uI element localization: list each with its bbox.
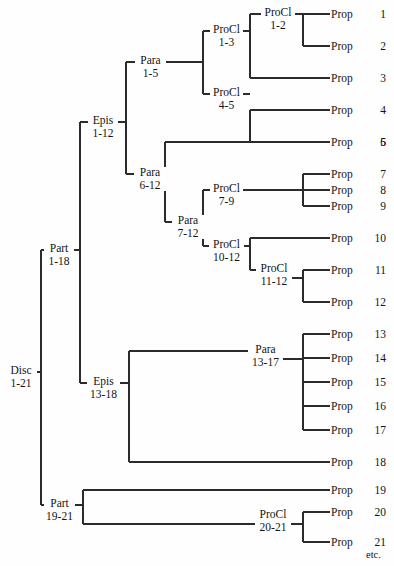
leaf-number-6: 6 [366,136,386,148]
node-procl-11-12-range: 11-12 [257,276,291,288]
node-disc-1-21-name: Disc [6,365,36,377]
node-para-7-12-name: Para [173,215,203,227]
leaf-number-13: 13 [366,328,386,340]
leaf-number-18: 18 [366,456,386,468]
node-procl-11-12[interactable]: ProCl 11-12 [256,263,292,287]
leaf-number-19: 19 [366,484,386,496]
node-procl-7-9-name: ProCl [211,183,242,195]
node-procl-1-3-name: ProCl [211,24,242,36]
leaf-number-10: 10 [366,232,386,244]
node-epis-1-12-range: 1-12 [89,128,117,140]
node-epis-13-18[interactable]: Epis 13-18 [87,376,120,400]
node-part-19-21[interactable]: Part 19-21 [44,498,75,522]
node-para-7-12-range: 7-12 [173,228,203,240]
leaf-prop-6[interactable]: Prop [330,136,354,148]
leaf-prop-16[interactable]: Prop [330,400,354,412]
leaf-prop-1[interactable]: Prop [330,8,354,20]
leaf-prop-3[interactable]: Prop [330,72,354,84]
node-procl-4-5[interactable]: ProCl 4-5 [210,87,243,111]
leaf-number-21: 21 [366,536,386,548]
node-para-13-17[interactable]: Para 13-17 [248,344,283,368]
tree-connector-lines [0,0,394,566]
node-procl-10-12-name: ProCl [210,239,243,251]
node-para-6-12-name: Para [135,167,165,179]
node-procl-1-3-range: 1-3 [211,37,242,49]
node-procl-1-2-range: 1-2 [262,20,294,32]
leaf-prop-7[interactable]: Prop [330,168,354,180]
leaf-prop-12[interactable]: Prop [330,296,354,308]
node-procl-1-3[interactable]: ProCl 1-3 [210,24,243,48]
node-procl-1-2[interactable]: ProCl 1-2 [261,7,295,31]
node-para-6-12[interactable]: Para 6-12 [134,167,166,191]
node-disc-1-21-range: 1-21 [6,378,36,390]
node-para-7-12[interactable]: Para 7-12 [172,215,204,239]
leaf-number-16: 16 [366,400,386,412]
leaf-prop-15[interactable]: Prop [330,376,354,388]
leaf-number-2: 2 [366,40,386,52]
node-procl-20-21[interactable]: ProCl 20-21 [255,509,291,533]
leaf-prop-20[interactable]: Prop [330,506,354,518]
node-procl-1-2-name: ProCl [262,7,294,19]
leaf-prop-4[interactable]: Prop [330,104,354,116]
node-procl-7-9[interactable]: ProCl 7-9 [210,183,243,207]
node-part-19-21-name: Part [45,498,74,510]
leaf-number-15: 15 [366,376,386,388]
leaf-prop-18[interactable]: Prop [330,456,354,468]
node-epis-13-18-name: Epis [88,376,119,388]
leaf-number-20: 20 [366,506,386,518]
node-procl-11-12-name: ProCl [257,263,291,275]
leaf-prop-2[interactable]: Prop [330,40,354,52]
leaf-number-12: 12 [366,296,386,308]
leaf-prop-11[interactable]: Prop [330,264,354,276]
tree-diagram-page: Disc 1-21 Part 1-18 Epis 1-12 Para 1-5 P… [0,0,394,566]
leaf-number-3: 3 [366,72,386,84]
leaf-prop-8[interactable]: Prop [330,184,354,196]
node-part-19-21-range: 19-21 [45,511,74,523]
node-para-1-5-name: Para [136,55,165,67]
node-para-1-5[interactable]: Para 1-5 [135,55,166,79]
node-disc-1-21[interactable]: Disc 1-21 [5,365,37,389]
leaf-number-1: 1 [366,8,386,20]
node-epis-1-12-name: Epis [89,115,117,127]
node-procl-20-21-range: 20-21 [256,522,290,534]
node-para-13-17-range: 13-17 [249,357,282,369]
leaf-prop-9[interactable]: Prop [330,200,354,212]
node-part-1-18[interactable]: Part 1-18 [44,243,74,267]
leaf-number-4: 4 [366,104,386,116]
node-para-6-12-range: 6-12 [135,180,165,192]
node-procl-10-12[interactable]: ProCl 10-12 [209,239,244,263]
node-procl-4-5-range: 4-5 [211,100,242,112]
leaf-number-8: 8 [366,184,386,196]
leaf-prop-13[interactable]: Prop [330,328,354,340]
node-procl-7-9-range: 7-9 [211,196,242,208]
node-procl-4-5-name: ProCl [211,87,242,99]
leaf-number-17: 17 [366,424,386,436]
node-epis-13-18-range: 13-18 [88,389,119,401]
node-procl-20-21-name: ProCl [256,509,290,521]
leaf-prop-21[interactable]: Prop [330,536,354,548]
leaf-prop-14[interactable]: Prop [330,352,354,364]
leaf-number-14: 14 [366,352,386,364]
node-procl-10-12-range: 10-12 [210,252,243,264]
node-part-1-18-range: 1-18 [45,256,73,268]
leaf-prop-17[interactable]: Prop [330,424,354,436]
node-para-13-17-name: Para [249,344,282,356]
leaf-number-11: 11 [366,264,386,276]
etc-footnote: etc. [366,549,381,560]
leaf-prop-10[interactable]: Prop [330,232,354,244]
leaf-prop-19[interactable]: Prop [330,484,354,496]
leaf-number-7: 7 [366,168,386,180]
leaf-number-9: 9 [366,200,386,212]
node-para-1-5-range: 1-5 [136,68,165,80]
node-epis-1-12[interactable]: Epis 1-12 [88,115,118,139]
node-part-1-18-name: Part [45,243,73,255]
